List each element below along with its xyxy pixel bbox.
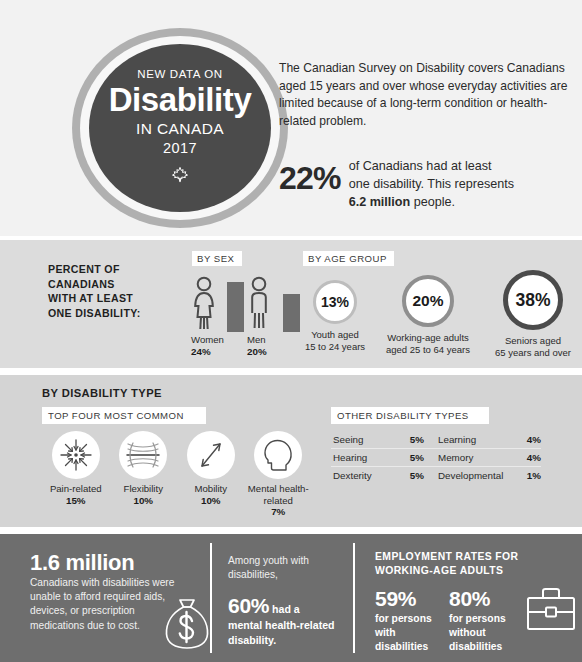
logo-inner-circle: NEW DATA ON Disability IN CANADA 2017 <box>89 44 271 212</box>
by-sex-tag: BY SEX <box>192 251 242 266</box>
table-row: Learning 4% <box>436 431 541 449</box>
female-figure-icon <box>190 276 244 332</box>
employment-desc-without: for persons without disabilities <box>449 612 523 655</box>
other-types-column-right: Learning 4% Memory 4% Developmental 1% <box>436 431 541 484</box>
age-caption-youth-line2: 15 to 24 years <box>300 341 370 353</box>
top-four-name-flexibility: Flexibility <box>110 483 178 495</box>
age-caption-seniors-line2: 65 years and over <box>488 347 578 359</box>
youth-stat-percent: 60% <box>228 594 269 617</box>
headline-stat-line3-rest: people. <box>410 195 455 209</box>
top-four-value-flexibility: 10% <box>110 495 178 507</box>
top-four-name-pain: Pain-related <box>42 483 110 495</box>
sex-caption-women: Women 24% <box>190 334 244 359</box>
sex-name-men: Men <box>247 334 300 346</box>
table-row: Seeing 5% <box>331 431 436 449</box>
sex-item-women: Women 24% <box>190 276 244 359</box>
other-type-value: 4% <box>527 452 541 463</box>
top-four-name-mobility: Mobility <box>177 483 245 495</box>
other-types-column-left: Seeing 5% Hearing 5% Dexterity 5% <box>331 431 436 484</box>
age-caption-working-age: Working-age adults aged 25 to 64 years <box>374 332 482 357</box>
headline-stat-bold: 6.2 million <box>349 195 411 209</box>
age-circle-youth: 13% <box>313 280 357 324</box>
intro-paragraph: The Canadian Survey on Disability covers… <box>279 60 569 130</box>
logo-kicker: NEW DATA ON <box>137 68 222 82</box>
footer-section: 1.6 million Canadians with disabilities … <box>0 534 582 662</box>
male-figure-icon <box>246 276 300 332</box>
sex-value-men: 20% <box>247 346 300 359</box>
by-age-group-chart: 13% Youth aged 15 to 24 years 20% Workin… <box>300 270 575 364</box>
youth-lead-text: Among youth with disabilities, <box>228 554 340 582</box>
other-types-tag: OTHER DISABILITY TYPES <box>331 407 489 424</box>
age-caption-working-age-line2: aged 25 to 64 years <box>374 344 482 356</box>
age-caption-working-age-line1: Working-age adults <box>374 332 482 344</box>
other-type-name: Developmental <box>438 470 503 481</box>
by-age-group-tag: BY AGE GROUP <box>303 251 394 266</box>
age-circle-working-age: 20% <box>402 275 454 327</box>
top-four-list: Pain-related 15% Flexibility 1 <box>42 431 312 519</box>
employment-percent-without: 80% <box>449 588 523 610</box>
table-row: Memory 4% <box>436 449 541 467</box>
percent-section: PERCENT OF CANADIANS WITH AT LEAST ONE D… <box>0 240 582 368</box>
top-four-item-mobility: Mobility 10% <box>177 431 245 519</box>
top-four-value-pain: 15% <box>42 495 110 507</box>
age-caption-youth-line1: Youth aged <box>300 329 370 341</box>
sex-value-women: 24% <box>191 346 244 359</box>
table-row: Dexterity 5% <box>331 467 436 484</box>
head-profile-icon <box>254 431 302 479</box>
percent-label-line-3: WITH AT LEAST <box>48 291 141 306</box>
age-item-working-age: 20% Working-age adults aged 25 to 64 yea… <box>374 275 482 357</box>
top-four-item-mental-health: Mental health- related 7% <box>245 431 313 519</box>
top-four-name-mental-health-line1: Mental health- <box>248 483 309 494</box>
logo-title: Disability <box>109 82 252 119</box>
headline-stat-line2: one disability. This represents <box>349 177 514 191</box>
employment-item-without-disabilities: 80% for persons without disabilities <box>449 588 523 655</box>
sex-bar-men <box>283 294 300 332</box>
age-circle-seniors: 38% <box>503 270 563 330</box>
other-type-name: Dexterity <box>333 470 372 481</box>
disability-type-title: BY DISABILITY TYPE <box>42 387 162 399</box>
headline-stat: 22% of Canadians had at least one disabi… <box>279 150 569 211</box>
other-type-value: 4% <box>527 434 541 445</box>
age-item-seniors: 38% Seniors aged 65 years and over <box>488 270 578 360</box>
sex-name-women: Women <box>191 334 244 346</box>
disability-type-section: BY DISABILITY TYPE TOP FOUR MOST COMMON … <box>0 375 582 527</box>
table-row: Developmental 1% <box>436 467 541 484</box>
percent-label-line-4: ONE DISABILITY: <box>48 306 141 321</box>
other-type-name: Seeing <box>333 434 364 445</box>
age-item-youth: 13% Youth aged 15 to 24 years <box>300 280 370 354</box>
other-type-value: 5% <box>410 470 424 481</box>
by-sex-chart: Women 24% Men 20% <box>190 276 300 362</box>
youth-stat-after: had a <box>269 603 300 615</box>
other-type-value: 5% <box>410 452 424 463</box>
other-type-name: Learning <box>438 434 476 445</box>
top-four-name-mental-health-line2: related <box>264 495 293 506</box>
intro-block: The Canadian Survey on Disability covers… <box>279 60 569 212</box>
footer-panel-youth: Among youth with disabilities, 60% had a… <box>212 534 355 662</box>
percent-section-label: PERCENT OF CANADIANS WITH AT LEAST ONE D… <box>48 262 141 320</box>
youth-stat: 60% had a mental health-related disabili… <box>228 594 352 647</box>
employment-title: EMPLOYMENT RATES FOR WORKING-AGE ADULTS <box>375 550 535 578</box>
sex-item-men: Men 20% <box>246 276 300 359</box>
other-type-name: Memory <box>438 452 473 463</box>
affordability-big-number: 1.6 million <box>30 552 134 574</box>
logo-year: 2017 <box>163 139 197 159</box>
footer-panel-affordability: 1.6 million Canadians with disabilities … <box>0 534 212 662</box>
top-four-item-flexibility: Flexibility 10% <box>110 431 178 519</box>
flexibility-curves-icon <box>119 431 167 479</box>
top-four-item-pain: Pain-related 15% <box>42 431 110 519</box>
header-section: NEW DATA ON Disability IN CANADA 2017 Th… <box>0 0 582 236</box>
top-four-tag: TOP FOUR MOST COMMON <box>42 407 206 424</box>
percent-label-line-1: PERCENT OF <box>48 262 141 277</box>
employment-percent-with: 59% <box>375 588 449 610</box>
infographic-page: NEW DATA ON Disability IN CANADA 2017 Th… <box>0 0 582 662</box>
headline-stat-line1: of Canadians had at least <box>349 159 492 173</box>
employment-desc-with: for persons with disabilities <box>375 612 449 655</box>
age-caption-seniors-line1: Seniors aged <box>488 335 578 347</box>
footer-panel-employment: EMPLOYMENT RATES FOR WORKING-AGE ADULTS … <box>355 534 582 662</box>
briefcase-icon <box>525 586 577 636</box>
headline-stat-text: of Canadians had at least one disability… <box>349 150 514 211</box>
disability-logo: NEW DATA ON Disability IN CANADA 2017 <box>72 28 288 228</box>
pain-burst-icon <box>52 431 100 479</box>
top-four-value-mental-health: 7% <box>245 506 313 518</box>
youth-stat-tail: mental health-related disability. <box>228 618 352 647</box>
